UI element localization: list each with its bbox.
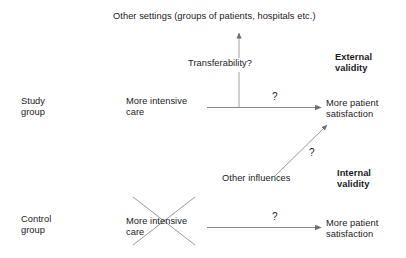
node-other-settings: Other settings (groups of patients, hosp… [113,11,316,22]
diagram-canvas: Other settings (groups of patients, hosp… [0,0,406,258]
row-label-study-group: Study group [21,96,45,118]
annotation-internal-validity: Internal validity [337,168,371,190]
edge-label-diagonal-arrow-question: ? [309,148,315,158]
node-control-more-intensive-care: More intensive care [126,216,187,238]
node-study-more-intensive-care: More intensive care [126,96,187,118]
edge-label-transferability: Transferability? [188,58,252,69]
other-influences-arrow-diagonal-up-right-icon [275,125,327,176]
edge-label-study-arrow-question: ? [272,92,278,102]
node-study-more-patient-satisfaction: More patient satisfaction [326,98,378,120]
row-label-control-group: Control group [21,214,51,236]
node-other-influences: Other influences [222,173,291,184]
annotation-external-validity: External validity [335,52,372,74]
node-control-more-patient-satisfaction: More patient satisfaction [326,218,378,240]
edge-label-control-arrow-question: ? [272,212,278,222]
